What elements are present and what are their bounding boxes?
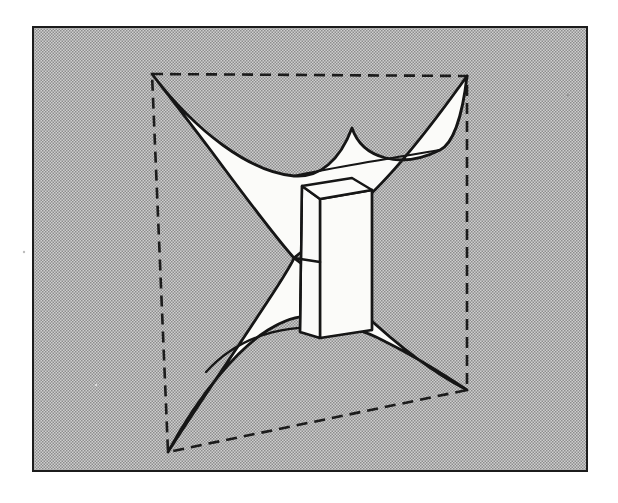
prism-side-face bbox=[320, 190, 372, 338]
scan-speck-mid bbox=[95, 384, 97, 386]
scan-speck-left bbox=[23, 251, 25, 253]
geometric-surface-diagram bbox=[0, 0, 618, 503]
figure-canvas: Geometric surface diagram Scanned line-a… bbox=[0, 0, 618, 503]
scan-speck-right bbox=[567, 94, 570, 97]
scan-speck-upper-right bbox=[579, 169, 581, 171]
